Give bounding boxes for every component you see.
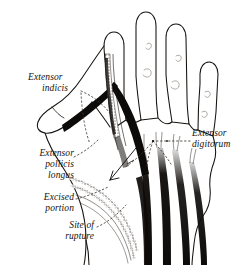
label-extensor-pollicis-longus-line1: Extensor (8, 148, 74, 159)
label-excised-portion-line2: portion (12, 203, 74, 214)
leader-extensor-pollicis-longus (74, 139, 99, 157)
label-extensor-pollicis-longus: Extensor pollicis longus (8, 148, 74, 181)
label-extensor-pollicis-longus-line3: longus (8, 170, 74, 181)
tendon-band-3 (172, 150, 190, 265)
label-excised-portion: Excised portion (12, 192, 74, 214)
middle-finger-outline (136, 12, 158, 120)
label-excised-portion-line1: Excised (12, 192, 74, 203)
little-finger-outline (198, 62, 218, 136)
label-site-of-rupture-line1: Site of (38, 220, 94, 231)
label-extensor-indicis-line2: indicis (28, 83, 68, 94)
wrist-left-contour (86, 240, 89, 265)
label-extensor-pollicis-longus-line2: pollicis (8, 159, 74, 170)
label-extensor-digitorum-line1: Extensor (192, 128, 230, 139)
label-extensor-digitorum-line2: digitorum (192, 139, 230, 150)
label-extensor-indicis: Extensor indicis (28, 72, 68, 94)
label-site-of-rupture: Site of rupture (38, 220, 94, 242)
ei-continuation (114, 136, 129, 168)
label-extensor-indicis-line1: Extensor (28, 72, 68, 83)
label-site-of-rupture-line2: rupture (38, 231, 94, 242)
ring-finger-outline (166, 24, 189, 124)
label-extensor-digitorum: Extensor digitorum (192, 128, 230, 150)
anatomical-figure: Extensor indicis Extensor pollicis longu… (0, 0, 251, 265)
tendon-band-2 (157, 148, 171, 265)
web-middle-ring (158, 118, 172, 124)
thumb-crease (52, 107, 64, 118)
